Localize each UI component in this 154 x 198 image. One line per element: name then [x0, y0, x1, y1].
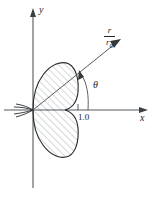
x-axis-label: x	[140, 113, 144, 123]
theta-angle-label: θ	[93, 80, 98, 90]
polar-plot-figure: x y θ 1.0 r r0	[0, 0, 154, 198]
x-tick-label-1: 1.0	[78, 113, 89, 122]
radius-ratio-numerator: r	[104, 26, 115, 36]
curve-upper-lobe-fill	[33, 63, 78, 111]
radius-ratio-denominator-subscript: 0	[110, 42, 113, 49]
y-axis-label: y	[39, 5, 43, 15]
figure-canvas	[0, 0, 154, 198]
radius-ratio-label: r r0	[104, 26, 115, 49]
curve-lower-lobe-fill	[33, 109, 78, 157]
theta-arc	[78, 70, 88, 110]
radius-ratio-denominator: r0	[104, 37, 115, 49]
